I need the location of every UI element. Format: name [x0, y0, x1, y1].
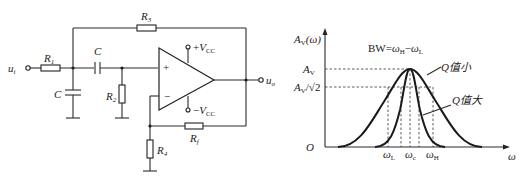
- vcc-negative-terminal: [186, 108, 190, 112]
- r2-label: R2: [105, 90, 117, 104]
- peak-level-label: AV: [302, 63, 315, 77]
- r4-label: R4: [156, 144, 168, 158]
- half-power-level-label: AV/√2: [293, 81, 320, 95]
- y-axis-label: AV(ω): [293, 33, 321, 47]
- bandwidth-formula: BW=ωH−ωL: [368, 42, 423, 56]
- low-q-label: Q值小: [441, 61, 472, 73]
- origin-label: O: [306, 141, 314, 153]
- x-axis-label: ω: [508, 150, 516, 162]
- diagram-canvas: ui R1 C C R2 R3 + −: [0, 0, 529, 183]
- input-terminal: [26, 66, 30, 70]
- capacitor-series-label: C: [94, 45, 102, 57]
- resistor-r4: [147, 140, 153, 158]
- r3-label: R3: [140, 10, 152, 24]
- vcc-positive-terminal: [186, 45, 190, 49]
- vcc-positive-label: +VCC: [193, 41, 216, 55]
- resistor-r3: [137, 25, 156, 31]
- curve-high-q: [375, 69, 445, 147]
- op-amp-plus: +: [163, 61, 169, 73]
- high-q-pointer: [423, 105, 451, 115]
- bandpass-filter-circuit: ui R1 C C R2 R3 + −: [8, 10, 276, 171]
- tick-omega-l: ωL: [383, 148, 395, 162]
- output-terminal: [259, 78, 263, 82]
- low-q-pointer: [427, 67, 441, 75]
- op-amp-minus: −: [164, 90, 170, 102]
- resistor-rf: [185, 123, 203, 129]
- high-q-label: Q值大: [452, 94, 483, 106]
- capacitor-shunt-label: C: [54, 88, 62, 100]
- frequency-response-plot: AV(ω) O ω BW=ωH−ωL AV AV/√2 Q值小 Q值大 ωL ω…: [293, 28, 516, 162]
- input-label: ui: [8, 62, 16, 76]
- tick-omega-h: ωH: [426, 148, 439, 162]
- rf-label: Rf: [189, 132, 200, 146]
- x-axis-arrow: [503, 145, 510, 150]
- y-axis-arrow: [323, 28, 328, 35]
- curve-low-q: [338, 69, 482, 147]
- vcc-negative-label: −VCC: [193, 104, 216, 118]
- resistor-r2: [119, 85, 125, 103]
- tick-omega-c: ωc: [405, 148, 416, 162]
- r1-label: R1: [43, 52, 54, 66]
- output-label: uo: [266, 74, 276, 88]
